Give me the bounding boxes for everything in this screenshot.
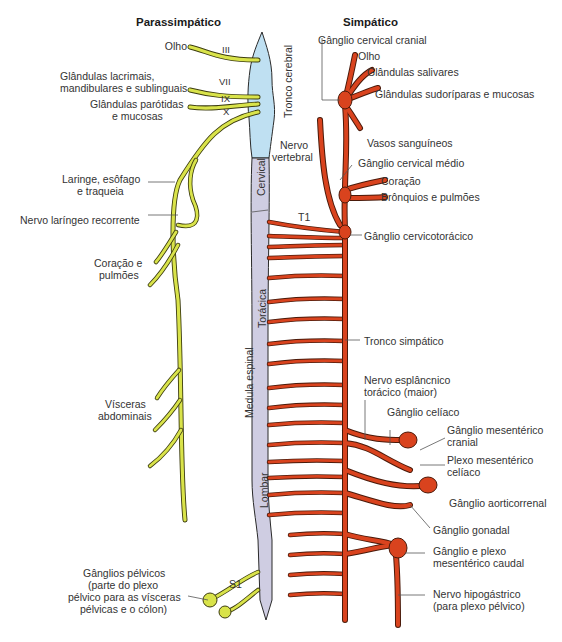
spinal-cord-label: Medula espinal (243, 347, 255, 418)
para-parotid-label-1: Glândulas parótidas (90, 98, 183, 111)
para-pelvic-label-3: pélvico para as vísceras (68, 591, 181, 604)
symp-gonadal-label: Gânglio gonadal (433, 524, 509, 537)
sympathetic-header: Simpático (343, 16, 398, 28)
parasympathetic-header: Parassimpático (136, 16, 221, 28)
symp-lungs-label: Brônquios e pulmões (381, 191, 480, 204)
parasympathetic-cranial-nerves (173, 47, 258, 520)
cranial-nerve-x: X (223, 106, 229, 117)
symp-vertebral-label-2: vertebral (272, 151, 313, 164)
para-pelvic-label-2: (parte do plexo (88, 579, 158, 592)
thoracic-label: Torácica (256, 289, 268, 328)
para-lacrimal-label-2: mandibulares e sublinguais (60, 82, 187, 95)
symp-heart-label: Coração (381, 175, 421, 188)
t1-marker: T1 (298, 211, 310, 224)
symp-salivary-label: Glândulas salivares (367, 66, 459, 79)
cranial-nerve-iii: III (222, 44, 230, 55)
symp-trunk-label: Tronco simpático (364, 335, 444, 348)
para-viscera-label-2: abdominais (98, 410, 152, 423)
symp-celiac-label: Gânglio celíaco (387, 406, 459, 419)
para-heart-label-2: pulmões (99, 269, 139, 282)
para-larynx-label-1: Laringe, esôfago (62, 173, 140, 186)
symp-cranial-ganglion-label: Gânglio cervical cranial (318, 34, 427, 47)
symp-vessels-label: Vasos sanguíneos (367, 137, 453, 150)
symp-sweat-label: Glândulas sudoríparas e mucosas (375, 88, 534, 101)
para-recurrent-label: Nervo laríngeo recorrente (20, 214, 140, 227)
symp-cranial-mesenteric-label-1: Gânglio mesentérico (447, 424, 543, 437)
symp-middle-ganglion-label: Gânglio cervical médio (358, 157, 464, 170)
symp-cranial-mesenteric-label-2: cranial (447, 436, 478, 449)
symp-hypogastric-label-2: (para plexo pélvico) (433, 600, 525, 613)
cranial-nerve-ix: IX (221, 93, 230, 104)
symp-cervicothoracic-label: Gânglio cervicotorácico (364, 230, 473, 243)
lumbar-label: Lombar (258, 472, 270, 508)
symp-vertebral-label-1: Nervo (280, 139, 308, 152)
para-viscera-label-1: Vísceras (105, 398, 146, 411)
symp-aorticorenal-label: Gânglio aorticorrenal (449, 497, 546, 510)
s1-marker: S1 (229, 578, 242, 591)
symp-caudal-label-2: mesentérico caudal (433, 557, 524, 570)
cranial-nerve-vii: VII (219, 76, 231, 87)
para-heart-label-1: Coração e (94, 257, 142, 270)
symp-splanchnic-label-1: Nervo esplâncnico (364, 374, 450, 387)
symp-celiac-plexus-label-2: celíaco (447, 466, 480, 479)
para-eye-label: Olho (165, 40, 187, 53)
symp-eye-label: Olho (358, 50, 380, 63)
para-pelvic-label-1: Gânglios pélvicos (83, 567, 165, 580)
para-pelvic-label-4: pélvicas e o cólon) (80, 603, 167, 616)
cervical-label: Cervical (255, 158, 267, 196)
symp-caudal-label-1: Gânglio e plexo (433, 545, 506, 558)
para-larynx-label-2: e traqueia (77, 185, 124, 198)
para-parotid-label-2: e mucosas (112, 110, 163, 123)
brainstem-label: Tronco cerebral (282, 45, 294, 118)
para-lacrimal-label-1: Glândulas lacrimais, (60, 70, 155, 83)
symp-celiac-plexus-label-1: Plexo mesentérico (447, 454, 533, 467)
symp-hypogastric-label-1: Nervo hipogástrico (433, 588, 521, 601)
symp-splanchnic-label-2: torácico (maior) (364, 386, 437, 399)
